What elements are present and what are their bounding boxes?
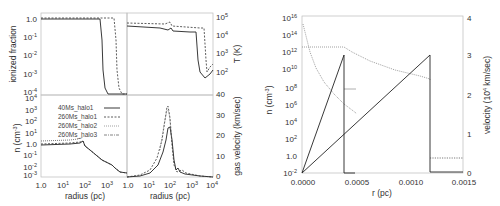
ionized-fraction-curves xyxy=(41,18,127,94)
tick-label: 102 xyxy=(285,134,297,144)
tick-label: 102 xyxy=(79,180,91,190)
r-ylabel-left: n (cm-3) xyxy=(264,85,274,114)
tick-label: 2 xyxy=(467,91,472,100)
curve-260ms-halo1 xyxy=(41,18,127,94)
r-xlabel: r (pc) xyxy=(372,188,392,198)
r-y-ticks-right: 0 1 2 3 4 xyxy=(467,14,472,178)
tick-label: 40 xyxy=(216,90,225,99)
tick-label: 3 xyxy=(467,51,472,60)
right-figure: 1016 1014 1012 1010 108 106 104 102 1.0 … xyxy=(264,13,492,198)
tick-label: 103 xyxy=(25,105,37,115)
tick-label: 1.0 xyxy=(122,181,134,190)
xlabel-left: radius (pc) xyxy=(65,191,105,201)
temperature-panel-frame xyxy=(127,13,213,95)
ionized-fraction-panel-frame xyxy=(41,13,127,95)
tick-label: 1 xyxy=(467,130,472,139)
tick-label: 10-1 xyxy=(23,150,37,160)
v-ylabel: gas velocity (km/sec) xyxy=(232,96,242,176)
legend-label: 40Ms_halo1 xyxy=(58,104,94,112)
tick-label: 101 xyxy=(143,180,155,190)
tick-label: 1010 xyxy=(282,64,297,74)
x-ticks-left: 1.0 101 102 103 1.0 xyxy=(35,180,134,190)
tick-label: 103 xyxy=(186,180,198,190)
velocity-curves xyxy=(127,106,213,177)
velocity-curve-inner xyxy=(302,55,355,173)
curve-40ms-halo1 xyxy=(127,127,213,177)
tick-label: 10 xyxy=(216,152,225,161)
curve-260ms-halo1 xyxy=(41,141,127,173)
tick-label: 0.0010 xyxy=(399,178,424,187)
tick-label: 103 xyxy=(216,48,228,58)
tick-label: 10-2 xyxy=(283,168,297,178)
tick-label: 1016 xyxy=(282,13,297,23)
figure-canvas: 1.0 10-1 10-2 10-3 10-4 ionized fraction… xyxy=(0,0,500,206)
temperature-curves xyxy=(127,22,213,78)
density-curves xyxy=(41,137,127,173)
tick-label: 104 xyxy=(216,30,228,40)
left-figure: 1.0 10-1 10-2 10-3 10-4 ionized fraction… xyxy=(8,12,242,201)
tick-label: 101 xyxy=(57,180,69,190)
velocity-curve-outer xyxy=(302,55,463,173)
n-y-ticks: 104 103 102 101 1.0 10-1 10-2 10-3 xyxy=(23,93,37,180)
tick-label: 0.0015 xyxy=(452,178,477,187)
density-curve-inner xyxy=(303,24,356,114)
r-x-ticks: 0.0000 0.0005 0.0010 0.0015 xyxy=(291,178,477,187)
tick-label: 10-3 xyxy=(23,69,37,79)
curve-40ms-halo1 xyxy=(127,26,213,78)
tick-label: 10-2 xyxy=(23,50,37,60)
curve-260ms-halo1 xyxy=(127,106,213,177)
tick-label: 1.0 xyxy=(286,152,298,161)
tick-label: 105 xyxy=(216,12,228,22)
x-ticks-right: 101 102 103 104 xyxy=(143,180,218,190)
ion-y-ticks: 1.0 10-1 10-2 10-3 10-4 xyxy=(23,15,37,97)
t-y-ticks: 105 104 103 102 40 xyxy=(216,12,228,99)
tick-label: 30 xyxy=(216,111,225,120)
tick-label: 1.0 xyxy=(35,181,47,190)
tick-label: 102 xyxy=(216,67,228,77)
tick-label: 102 xyxy=(164,180,176,190)
tick-label: 104 xyxy=(206,180,218,190)
legend-label: 260Ms_halo1 xyxy=(58,113,97,121)
ion-ylabel: ionized fraction xyxy=(8,25,18,82)
tick-label: 0 xyxy=(467,169,472,178)
n-ylabel: n (cm-3) xyxy=(12,123,22,152)
tick-label: 20 xyxy=(216,131,225,140)
tick-label: 0.0000 xyxy=(291,178,316,187)
tick-label: 104 xyxy=(285,117,297,127)
tick-label: 1.0 xyxy=(26,140,38,149)
legend-label: 260Ms_halo3 xyxy=(58,131,97,139)
tick-label: 103 xyxy=(101,180,113,190)
tick-label: 1014 xyxy=(282,30,297,40)
legend-label: 260Ms_halo2 xyxy=(58,122,97,130)
tick-label: 102 xyxy=(25,116,37,126)
density-curve-outer xyxy=(302,47,430,80)
tick-label: 10-3 xyxy=(23,170,37,180)
tick-label: 106 xyxy=(285,100,297,110)
tick-label: 101 xyxy=(25,128,37,138)
tick-label: 1.0 xyxy=(26,15,38,24)
legend: 40Ms_halo1 260Ms_halo1 260Ms_halo2 260Ms… xyxy=(58,104,120,139)
tick-label: 4 xyxy=(467,14,472,23)
right-panel-frame xyxy=(302,16,463,173)
tick-label: 104 xyxy=(25,93,37,103)
r-y-ticks-left: 1016 1014 1012 1010 108 106 104 102 1.0 … xyxy=(282,13,298,178)
tick-label: 0.0005 xyxy=(345,178,370,187)
t-ylabel: T (K) xyxy=(232,44,242,63)
tick-label: 10-1 xyxy=(23,32,37,42)
xlabel-right: radius (pc) xyxy=(150,191,190,201)
r-ylabel-right: velocity (104 km/sec) xyxy=(482,56,492,134)
curve-40ms-halo1 xyxy=(41,141,127,173)
velocity-panel-frame xyxy=(127,95,213,177)
tick-label: 1012 xyxy=(282,47,297,57)
tick-label: 108 xyxy=(285,83,297,93)
v-y-ticks: 0 10 20 30 xyxy=(216,111,225,181)
curve-260ms-halo1 xyxy=(127,22,213,72)
curve-40ms-halo1 xyxy=(41,19,127,94)
